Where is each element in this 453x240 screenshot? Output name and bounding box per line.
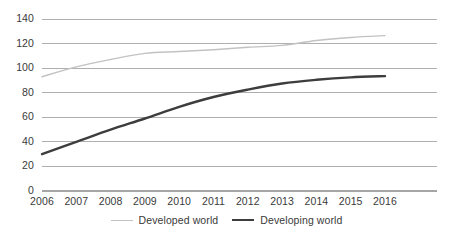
y-axis-tick-label: 100 [4, 62, 34, 73]
y-axis-tick-label: 40 [4, 136, 34, 147]
gridlines [42, 19, 437, 191]
y-axis-tick-label: 140 [4, 13, 34, 24]
legend-item-developed-world[interactable]: Developed world [111, 214, 219, 226]
legend-label-developed-world: Developed world [139, 214, 219, 226]
y-axis-tick-label: 120 [4, 38, 34, 49]
legend-line-icon-developed-world [111, 220, 133, 221]
series-lines [42, 36, 385, 155]
legend-item-developing-world[interactable]: Developing world [232, 214, 342, 226]
y-axis-tick-label: 20 [4, 160, 34, 171]
line-chart: 020406080100120140 200620072008200920102… [0, 0, 453, 240]
x-axis-tick-label: 2016 [365, 196, 405, 207]
y-axis-tick-label: 60 [4, 111, 34, 122]
chart-legend: Developed world Developing world [0, 214, 453, 226]
legend-label-developing-world: Developing world [260, 214, 342, 226]
series-line-developed-world [42, 36, 385, 77]
series-line-developing-world [42, 76, 385, 154]
legend-line-icon-developing-world [232, 219, 254, 221]
y-axis-tick-label: 80 [4, 87, 34, 98]
